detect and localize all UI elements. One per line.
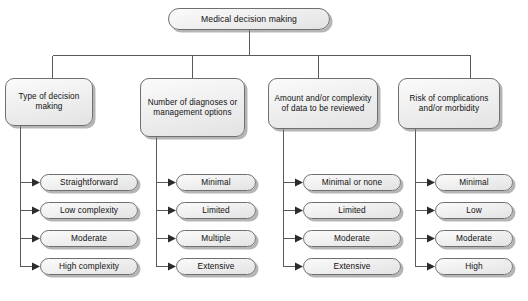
node-leaf[interactable]: Limited: [303, 202, 401, 219]
node-category-label: Type of decision making: [11, 92, 87, 111]
node-leaf[interactable]: High: [435, 258, 513, 275]
node-leaf-label: Low complexity: [60, 206, 118, 216]
node-leaf[interactable]: Straightforward: [40, 174, 138, 191]
arrowhead-4-1: [427, 179, 435, 187]
node-leaf-label: Minimal or none: [322, 178, 383, 188]
node-leaf-label: High: [465, 262, 482, 272]
arrowhead-3-4: [295, 263, 303, 271]
node-leaf-label: Minimal: [201, 178, 230, 188]
node-leaf-label: Moderate: [71, 234, 107, 244]
arrowhead-1-2: [32, 207, 40, 215]
arrowhead-2-2: [168, 207, 176, 215]
arrowhead-2-1: [168, 179, 176, 187]
node-leaf[interactable]: Multiple: [176, 230, 256, 247]
connector-lines: [0, 0, 528, 301]
node-leaf[interactable]: Moderate: [435, 230, 513, 247]
node-category-label: Risk of complications and/or morbidity: [404, 94, 494, 113]
node-leaf[interactable]: Minimal: [435, 174, 513, 191]
node-leaf-label: Straightforward: [60, 178, 118, 188]
node-category-type-of-decision-making[interactable]: Type of decision making: [5, 78, 93, 126]
node-root-label: Medical decision making: [201, 14, 297, 24]
node-category-number-of-diagnoses[interactable]: Number of diagnoses or management option…: [140, 78, 245, 137]
node-leaf[interactable]: Low: [435, 202, 513, 219]
arrowhead-3-1: [295, 179, 303, 187]
node-leaf-label: High complexity: [59, 262, 119, 272]
node-leaf[interactable]: Extensive: [176, 258, 256, 275]
node-category-amount-complexity-of-data[interactable]: Amount and/or complexity of data to be r…: [268, 78, 378, 129]
node-leaf[interactable]: High complexity: [40, 258, 138, 275]
node-leaf-label: Limited: [338, 206, 365, 216]
arrowhead-2-4: [168, 263, 176, 271]
arrowhead-4-3: [427, 235, 435, 243]
arrowhead-1-4: [32, 263, 40, 271]
node-leaf-label: Limited: [202, 206, 229, 216]
arrowhead-4-2: [427, 207, 435, 215]
node-leaf-label: Moderate: [334, 234, 370, 244]
arrowhead-1-1: [32, 179, 40, 187]
node-category-label: Number of diagnoses or management option…: [146, 98, 239, 117]
arrowhead-3-3: [295, 235, 303, 243]
arrowhead-2-3: [168, 235, 176, 243]
node-leaf-label: Minimal: [459, 178, 488, 188]
node-leaf[interactable]: Limited: [176, 202, 256, 219]
node-leaf-label: Extensive: [334, 262, 371, 272]
arrowhead-3-2: [295, 207, 303, 215]
node-leaf[interactable]: Extensive: [303, 258, 401, 275]
node-leaf-label: Moderate: [456, 234, 492, 244]
node-leaf[interactable]: Minimal: [176, 174, 256, 191]
node-leaf[interactable]: Moderate: [303, 230, 401, 247]
node-root[interactable]: Medical decision making: [168, 8, 330, 30]
node-leaf[interactable]: Moderate: [40, 230, 138, 247]
arrowhead-1-3: [32, 235, 40, 243]
diagram-canvas: Medical decision making Type of decision…: [0, 0, 528, 301]
node-leaf[interactable]: Minimal or none: [303, 174, 401, 191]
arrowhead-4-4: [427, 263, 435, 271]
node-category-label: Amount and/or complexity of data to be r…: [274, 94, 372, 113]
node-leaf-label: Extensive: [198, 262, 235, 272]
node-leaf[interactable]: Low complexity: [40, 202, 138, 219]
node-category-risk-of-complications[interactable]: Risk of complications and/or morbidity: [398, 78, 500, 129]
node-leaf-label: Low: [466, 206, 482, 216]
node-leaf-label: Multiple: [201, 234, 230, 244]
